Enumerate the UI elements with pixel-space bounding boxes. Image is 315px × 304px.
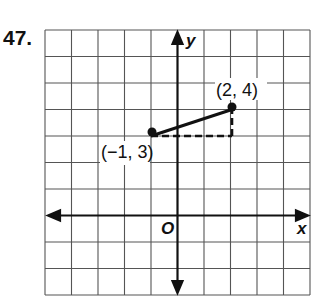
point-b (228, 103, 237, 112)
origin-label: O (161, 219, 174, 238)
point-a (148, 128, 157, 137)
x-axis-label: x (296, 219, 308, 238)
x-axis-left-arrow-icon (48, 211, 60, 221)
y-axis-label: y (185, 31, 197, 50)
y-axis-down-arrow-icon (173, 281, 183, 293)
point-b-label: (2, 4) (216, 80, 258, 100)
y-axis-up-arrow-icon (173, 32, 183, 44)
line-segment (151, 110, 232, 137)
point-a-label: (−1, 3) (101, 142, 154, 162)
coordinate-plane: y x O (2, 4) (−1, 3) (0, 0, 315, 304)
